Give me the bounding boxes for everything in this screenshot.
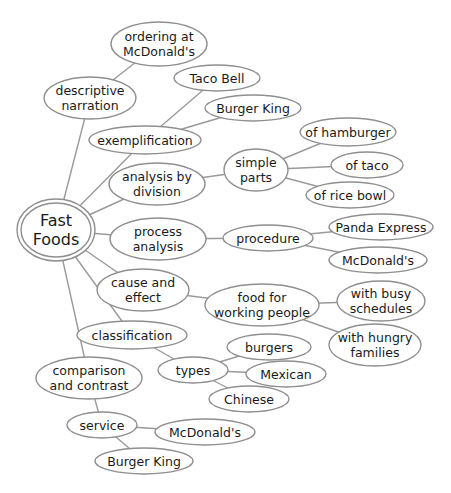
node-label: and contrast (49, 378, 128, 393)
mind-map: FastFoodsdescriptivenarrationordering at… (0, 0, 451, 493)
node-label: Foods (33, 230, 80, 249)
node-label: exemplification (97, 133, 193, 148)
node-label: effect (125, 290, 161, 305)
mind-map-canvas: FastFoodsdescriptivenarrationordering at… (0, 0, 451, 493)
topic-node-procedure: procedure (223, 225, 313, 251)
node-label: Mexican (260, 367, 312, 382)
node-label: classification (92, 328, 173, 343)
node-label: procedure (236, 231, 300, 246)
node-label: of rice bowl (314, 188, 386, 203)
topic-node-chinese: Chinese (209, 386, 289, 412)
node-label: ordering at (124, 29, 193, 44)
topic-node-cause: cause andeffect (97, 269, 189, 311)
node-label: Chinese (224, 392, 274, 407)
node-label: types (176, 363, 210, 378)
node-label: working people (214, 305, 310, 320)
topic-node-mexican: Mexican (246, 361, 326, 387)
topic-node-busy: with busyschedules (337, 281, 425, 321)
topic-node-burgerking1: Burger King (205, 95, 301, 121)
topic-node-foodfor: food forworking people (205, 284, 319, 326)
node-label: Taco Bell (189, 71, 245, 86)
node-label: families (351, 345, 400, 360)
node-label: of taco (345, 158, 388, 173)
node-label: with busy (351, 286, 412, 301)
node-label: narration (61, 98, 118, 113)
topic-node-mcd2: McDonald's (155, 419, 255, 445)
topic-node-hamburger: of hamburger (300, 118, 396, 146)
topic-node-classification: classification (77, 321, 187, 349)
node-label: analysis (133, 239, 184, 254)
topic-node-simpleparts: simpleparts (224, 149, 288, 191)
topic-node-hungry: with hungryfamilies (329, 324, 421, 366)
node-label: parts (240, 170, 272, 185)
node-label: schedules (350, 301, 413, 316)
node-label: McDonald's (123, 44, 195, 59)
topic-node-descriptive: descriptivenarration (44, 77, 136, 119)
node-label: analysis by (122, 169, 193, 184)
node-label: service (80, 418, 125, 433)
topic-node-burgerking2: Burger King (95, 448, 193, 474)
node-label: with hungry (338, 330, 413, 345)
node-label: cause and (111, 275, 175, 290)
topic-node-service: service (67, 412, 137, 438)
node-label: Burger King (107, 454, 181, 469)
node-label: Burger King (216, 101, 290, 116)
topic-node-ordering: ordering atMcDonald's (111, 22, 207, 66)
node-label: comparison (53, 363, 126, 378)
node-label: Panda Express (336, 220, 427, 235)
topic-node-ricebowl: of rice bowl (306, 182, 394, 208)
topic-node-division: analysis bydivision (109, 163, 205, 205)
topic-node-mcd1: McDonald's (329, 247, 427, 273)
topic-nodes: FastFoodsdescriptivenarrationordering at… (17, 22, 433, 474)
topic-node-types: types (158, 357, 228, 383)
topic-node-comparison: comparisonand contrast (36, 357, 142, 399)
topic-node-tacobell1: Taco Bell (174, 65, 260, 91)
topic-node-process: processanalysis (110, 218, 206, 260)
topic-node-taco: of taco (331, 152, 403, 178)
node-label: simple (235, 155, 277, 170)
node-label: of hamburger (305, 125, 391, 140)
node-label: burgers (245, 340, 293, 355)
topic-node-panda: Panda Express (329, 214, 433, 240)
node-label: descriptive (55, 83, 124, 98)
central-topic-node: FastFoods (17, 199, 95, 261)
topic-node-burgers: burgers (227, 334, 311, 360)
topic-node-exemplification: exemplification (89, 126, 201, 154)
node-label: process (134, 224, 182, 239)
node-label: food for (238, 290, 288, 305)
node-label: McDonald's (342, 253, 414, 268)
node-label: division (133, 184, 181, 199)
node-label: McDonald's (169, 425, 241, 440)
node-label: Fast (40, 211, 72, 230)
